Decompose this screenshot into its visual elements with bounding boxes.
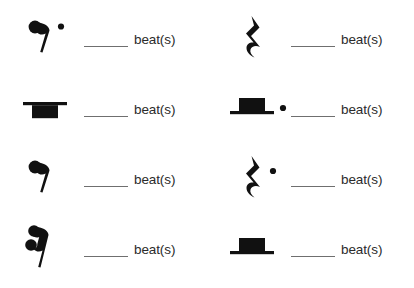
worksheet-item: beat(s) (207, 4, 414, 74)
beats-label: beat(s) (341, 102, 382, 117)
rest-symbol (225, 214, 297, 284)
worksheet-row: beat(s) beat(s) (0, 4, 414, 74)
answer-blank-input[interactable] (84, 46, 128, 47)
dotted-half-rest-icon (225, 74, 297, 144)
rest-values-worksheet: beat(s) beat(s) (0, 0, 414, 288)
rest-symbol (18, 214, 90, 284)
beats-label: beat(s) (134, 32, 175, 47)
dotted-quarter-rest-icon (225, 144, 297, 214)
answer-area: beat(s) (291, 144, 414, 214)
answer-blank-input[interactable] (291, 46, 335, 47)
rest-symbol (18, 74, 90, 144)
answer-area: beat(s) (291, 74, 414, 144)
eighth-rest-icon (18, 144, 90, 214)
worksheet-item: beat(s) (207, 74, 414, 144)
rest-symbol (18, 4, 90, 74)
half-rest-icon (225, 214, 297, 284)
answer-area: beat(s) (84, 214, 207, 284)
answer-area: beat(s) (84, 4, 207, 74)
dotted-eighth-rest-icon (18, 4, 90, 74)
whole-rest-icon (18, 74, 90, 144)
worksheet-row: beat(s) beat(s) (0, 214, 414, 284)
worksheet-item: beat(s) (207, 214, 414, 284)
rest-symbol (18, 144, 90, 214)
beats-label: beat(s) (341, 32, 382, 47)
answer-area: beat(s) (291, 214, 414, 284)
worksheet-item: beat(s) (0, 74, 207, 144)
worksheet-item: beat(s) (0, 144, 207, 214)
beats-label: beat(s) (341, 172, 382, 187)
answer-blank-input[interactable] (84, 116, 128, 117)
worksheet-item: beat(s) (207, 144, 414, 214)
answer-blank-input[interactable] (291, 256, 335, 257)
beats-label: beat(s) (134, 242, 175, 257)
worksheet-item: beat(s) (0, 214, 207, 284)
answer-area: beat(s) (84, 74, 207, 144)
beats-label: beat(s) (134, 172, 175, 187)
rest-symbol (225, 4, 297, 74)
worksheet-item: beat(s) (0, 4, 207, 74)
answer-area: beat(s) (291, 4, 414, 74)
sixteenth-rest-icon (18, 214, 90, 284)
beats-label: beat(s) (134, 102, 175, 117)
beats-label: beat(s) (341, 242, 382, 257)
answer-blank-input[interactable] (84, 256, 128, 257)
answer-area: beat(s) (84, 144, 207, 214)
answer-blank-input[interactable] (291, 186, 335, 187)
worksheet-row: beat(s) beat(s) (0, 74, 414, 144)
worksheet-row: beat(s) beat(s) (0, 144, 414, 214)
answer-blank-input[interactable] (291, 116, 335, 117)
rest-symbol (225, 74, 297, 144)
answer-blank-input[interactable] (84, 186, 128, 187)
quarter-rest-icon (225, 4, 297, 74)
rest-symbol (225, 144, 297, 214)
